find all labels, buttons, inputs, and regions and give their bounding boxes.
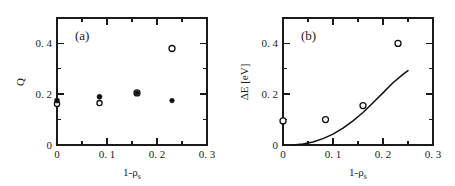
panel-a-xtick-label-2: 0. 2 — [149, 148, 166, 160]
panel-a-filled-circle-series — [55, 91, 175, 103]
data-point-open — [395, 40, 401, 46]
data-point-open — [169, 46, 175, 52]
panel-a-xtick-label-1: 0. 1 — [99, 148, 116, 160]
panel-b-ytick-label-0: 0 — [273, 139, 279, 151]
data-point-filled — [170, 98, 175, 103]
panel-a-xtick-label-0: 0 — [54, 148, 60, 160]
data-point-filled — [55, 98, 60, 103]
data-point-filled — [135, 91, 139, 95]
data-point-open — [323, 117, 329, 123]
panel-a-ytick-label-1: 0. 2 — [36, 88, 53, 100]
panel-b-xtick-label-3: 0. 3 — [425, 148, 442, 160]
panel-b-y-axis-title: ΔE [eV] — [238, 64, 250, 101]
panel-b-x-axis-title: 1-ρs — [349, 166, 367, 181]
panel-a-scatter-chart: 0 0. 1 0. 2 0. 3 0 0. 2 0. 4 1-ρs Q (a) — [0, 0, 227, 186]
panel-a-ytick-label-0: 0 — [47, 139, 53, 151]
panel-a-label: (a) — [75, 28, 89, 43]
data-point-open — [280, 118, 286, 124]
panel-a-y-major-ticks — [57, 43, 207, 145]
panel-b-ytick-label-1: 0. 2 — [262, 88, 279, 100]
panel-b-xtick-label-2: 0. 2 — [375, 148, 392, 160]
panel-a-open-circle-series — [54, 46, 175, 107]
panel-b-label: (b) — [301, 28, 316, 43]
panel-a-x-minor-ticks — [82, 18, 182, 145]
panel-b-model-curve — [293, 71, 408, 145]
data-point-filled — [97, 94, 102, 99]
panel-b-x-minor-ticks — [308, 18, 408, 145]
panel-a-ytick-label-2: 0. 4 — [36, 37, 53, 49]
panel-b-y-major-ticks — [283, 43, 433, 145]
data-point-open — [97, 101, 102, 106]
panel-a-xtick-label-3: 0. 3 — [199, 148, 216, 160]
panel-b-xtick-label-1: 0. 1 — [325, 148, 342, 160]
panel-b-ytick-label-2: 0. 4 — [262, 37, 279, 49]
data-point-open — [360, 103, 366, 109]
panel-a-svg: 0 0. 1 0. 2 0. 3 0 0. 2 0. 4 1-ρs Q (a) — [0, 0, 227, 186]
panel-b-svg: 0 0. 1 0. 2 0. 3 0 0. 2 0. 4 1-ρs ΔE [eV… — [228, 0, 455, 186]
panel-a-y-axis-title: Q — [14, 78, 26, 86]
panel-a-x-axis-title: 1-ρs — [123, 166, 141, 181]
figure-container: 0 0. 1 0. 2 0. 3 0 0. 2 0. 4 1-ρs Q (a) — [0, 0, 455, 186]
panel-b-xtick-label-0: 0 — [280, 148, 286, 160]
panel-b-scatter-chart: 0 0. 1 0. 2 0. 3 0 0. 2 0. 4 1-ρs ΔE [eV… — [228, 0, 455, 186]
panel-b-open-circle-series — [280, 40, 401, 124]
